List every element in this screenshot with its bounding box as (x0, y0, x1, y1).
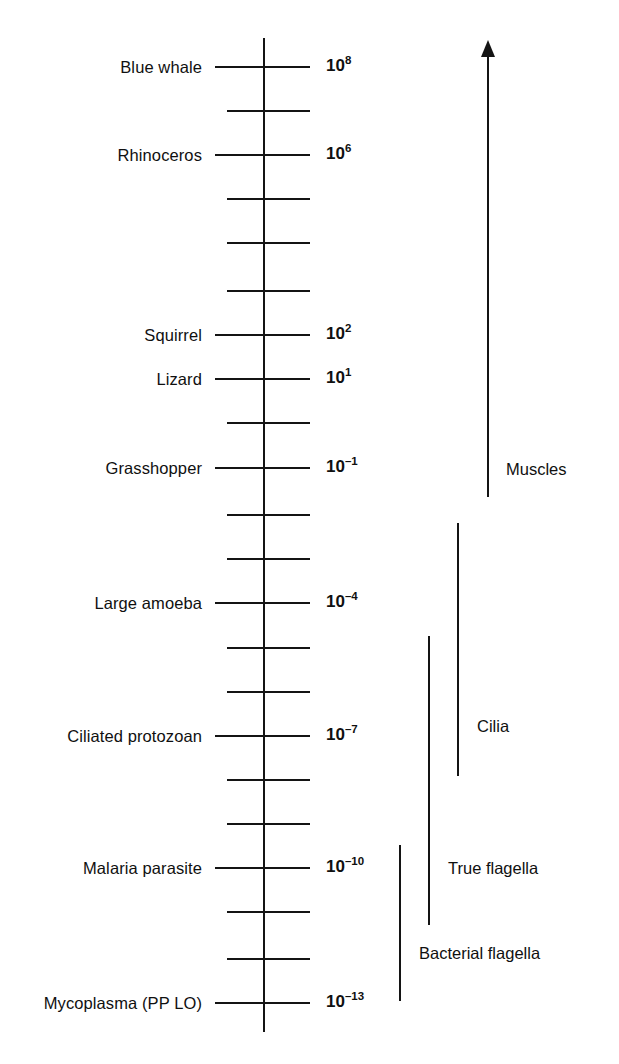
bacterial-flagella-bracket (399, 845, 401, 1001)
axis-value-10e2: 102 (326, 325, 351, 342)
exp-base: 10 (326, 592, 345, 611)
axis-tick (227, 691, 310, 693)
exp-base: 10 (326, 56, 345, 75)
axis-tick (227, 110, 310, 112)
axis-tick (227, 242, 310, 244)
species-label-malaria-parasite: Malaria parasite (2, 860, 202, 877)
axis-value-10e-7: 10–7 (326, 726, 358, 743)
exp-base: 10 (326, 857, 345, 876)
axis-tick (227, 647, 310, 649)
axis-tick (227, 779, 310, 781)
exp-superscript: –1 (345, 455, 358, 467)
axis-value-10e8: 108 (326, 57, 351, 74)
axis-tick (215, 378, 310, 380)
species-label-grasshopper: Grasshopper (2, 460, 202, 477)
axis-tick (227, 422, 310, 424)
exp-superscript: –7 (345, 723, 358, 735)
exp-superscript: –10 (345, 855, 364, 867)
species-label-squirrel: Squirrel (2, 327, 202, 344)
axis-value-10e-13: 10–13 (326, 993, 364, 1010)
muscles-arrow-shaft (487, 55, 489, 497)
axis-value-10e-4: 10–4 (326, 593, 358, 610)
axis-tick (215, 467, 310, 469)
exp-superscript: 8 (345, 54, 351, 66)
species-label-blue-whale: Blue whale (2, 59, 202, 76)
vertical-axis (263, 38, 265, 1032)
axis-value-10e-10: 10–10 (326, 858, 364, 875)
true-flagella-bracket (428, 636, 430, 925)
axis-tick (227, 290, 310, 292)
group-label-bacterial-flagella: Bacterial flagella (419, 945, 540, 962)
exp-superscript: –4 (345, 590, 358, 602)
exp-superscript: 1 (345, 366, 351, 378)
group-label-cilia: Cilia (477, 718, 509, 735)
species-label-ciliated-protozoan: Ciliated protozoan (2, 728, 202, 745)
exp-base: 10 (326, 457, 345, 476)
axis-tick (227, 958, 310, 960)
axis-tick (215, 735, 310, 737)
exp-base: 10 (326, 324, 345, 343)
axis-tick (215, 1002, 310, 1004)
axis-tick (227, 823, 310, 825)
exp-base: 10 (326, 725, 345, 744)
axis-tick (215, 867, 310, 869)
size-scale-diagram: Blue whale Rhinoceros Squirrel Lizard Gr… (0, 0, 619, 1064)
axis-value-10e1: 101 (326, 369, 351, 386)
exp-base: 10 (326, 144, 345, 163)
axis-tick (227, 198, 310, 200)
axis-tick (227, 911, 310, 913)
exp-base: 10 (326, 992, 345, 1011)
axis-tick (227, 558, 310, 560)
species-label-mycoplasma: Mycoplasma (PP LO) (2, 995, 202, 1012)
axis-tick (215, 334, 310, 336)
group-label-true-flagella: True flagella (448, 860, 538, 877)
exp-base: 10 (326, 368, 345, 387)
axis-tick (215, 66, 310, 68)
axis-tick (215, 154, 310, 156)
species-label-rhinoceros: Rhinoceros (2, 147, 202, 164)
exp-superscript: 2 (345, 322, 351, 334)
exp-superscript: –13 (345, 990, 364, 1002)
species-label-lizard: Lizard (2, 371, 202, 388)
axis-value-10e6: 106 (326, 145, 351, 162)
axis-tick (215, 602, 310, 604)
cilia-bracket (457, 523, 459, 776)
axis-value-10e-1: 10–1 (326, 458, 358, 475)
species-label-large-amoeba: Large amoeba (2, 595, 202, 612)
exp-superscript: 6 (345, 142, 351, 154)
group-label-muscles: Muscles (506, 461, 567, 478)
axis-tick (227, 514, 310, 516)
